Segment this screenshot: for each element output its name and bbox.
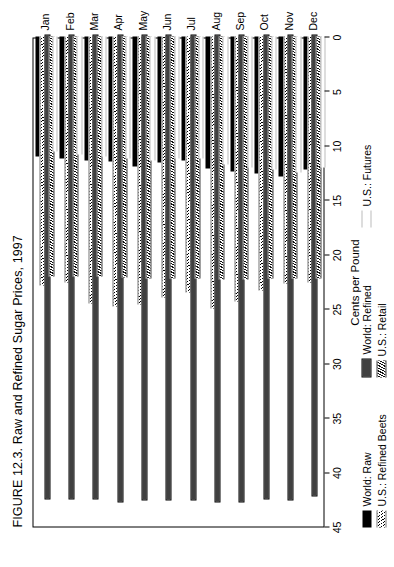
bar — [174, 36, 179, 158]
category-label-oct: Oct — [257, 14, 269, 30]
bar-group — [130, 38, 154, 526]
bar — [157, 36, 161, 162]
value-tick — [324, 308, 329, 309]
value-tick — [324, 90, 329, 91]
value-axis-title: Cents per Pound — [348, 37, 360, 527]
value-tick — [324, 36, 329, 37]
category-label-may: May — [136, 10, 148, 30]
bar — [247, 36, 252, 167]
bar-group — [252, 38, 276, 526]
legend-label: U.S.: Retail — [375, 303, 387, 356]
bar — [205, 36, 209, 168]
legend-item: World: Raw — [360, 452, 372, 527]
figure-page: FIGURE 12.3. Raw and Refined Sugar Price… — [0, 0, 394, 567]
bar-group — [57, 38, 81, 526]
bar — [52, 36, 57, 151]
value-tick — [324, 526, 329, 527]
bar — [101, 36, 106, 156]
bar — [278, 36, 282, 176]
category-axis-labels: JanFebMarAprMayJunJulAugSepOctNovDec — [32, 0, 324, 34]
legend-item: World: Refined — [360, 285, 372, 377]
chart-legend: World: RawWorld: RefinedU.S.: FuturesU.S… — [360, 27, 390, 527]
bar — [125, 36, 130, 158]
legend-swatch-dense-chevron-hatch — [376, 360, 386, 377]
bar-group — [228, 38, 252, 526]
bar — [76, 36, 81, 154]
bar — [198, 36, 203, 158]
value-tick — [324, 363, 329, 364]
category-label-sep: Sep — [233, 11, 245, 30]
category-label-mar: Mar — [87, 12, 99, 30]
bar — [254, 36, 258, 173]
category-label-feb: Feb — [63, 12, 75, 30]
value-tick — [324, 145, 329, 146]
value-tick-label: 40 — [330, 467, 342, 479]
value-tick-label: 30 — [330, 358, 342, 370]
value-tick — [324, 199, 329, 200]
legend-label: U.S.: Futures — [360, 144, 372, 206]
bar — [271, 36, 276, 169]
bar-group — [301, 38, 325, 526]
value-tick-label: 5 — [330, 89, 342, 95]
bar — [230, 36, 234, 171]
value-tick — [324, 417, 329, 418]
category-label-dec: Dec — [306, 11, 318, 30]
bars-layer — [33, 38, 323, 526]
legend-swatch-light-diagonal-hatch — [376, 510, 386, 527]
category-label-jan: Jan — [38, 13, 50, 30]
category-label-jul: Jul — [184, 17, 196, 30]
bar — [295, 36, 300, 172]
bar-group — [33, 38, 57, 526]
bar — [222, 36, 227, 164]
bar — [108, 36, 112, 161]
legend-label: World: Refined — [360, 285, 372, 354]
bar — [132, 36, 136, 166]
legend-label: World: Raw — [360, 452, 372, 506]
bar — [59, 36, 63, 158]
value-tick-label: 20 — [330, 249, 342, 261]
figure-title: FIGURE 12.3. Raw and Refined Sugar Price… — [10, 235, 24, 527]
bar-group — [155, 38, 179, 526]
bar — [84, 36, 88, 160]
bar-group — [276, 38, 300, 526]
value-tick-label: 0 — [330, 34, 342, 40]
category-label-jun: Jun — [160, 13, 172, 30]
value-tick-label: 45 — [330, 521, 342, 533]
bar-group — [82, 38, 106, 526]
bar-group — [203, 38, 227, 526]
bar-group — [179, 38, 203, 526]
bar — [303, 36, 307, 169]
legend-item: U.S.: Futures — [360, 144, 372, 227]
bar — [35, 36, 39, 156]
bar — [181, 36, 185, 160]
legend-item: U.S.: Refined Beets — [375, 414, 387, 527]
value-tick — [324, 472, 329, 473]
bar-group — [106, 38, 130, 526]
legend-label: U.S.: Refined Beets — [375, 414, 387, 506]
value-tick-label: 25 — [330, 303, 342, 315]
category-label-nov: Nov — [282, 11, 294, 30]
plot-area — [32, 37, 324, 527]
legend-swatch-solid-black — [362, 510, 371, 527]
legend-item: U.S.: Retail — [375, 303, 387, 377]
value-axis: 051015202530354045 — [324, 37, 350, 527]
legend-swatch-stipple-dots — [361, 210, 371, 227]
rotated-figure-canvas: FIGURE 12.3. Raw and Refined Sugar Price… — [0, 0, 394, 567]
legend-swatch-checkerboard — [361, 358, 371, 377]
category-label-apr: Apr — [111, 14, 123, 30]
value-tick — [324, 254, 329, 255]
value-tick-label: 15 — [330, 195, 342, 207]
bar — [149, 36, 154, 160]
value-tick-label: 10 — [330, 140, 342, 152]
value-tick-label: 35 — [330, 412, 342, 424]
category-label-aug: Aug — [209, 11, 221, 30]
